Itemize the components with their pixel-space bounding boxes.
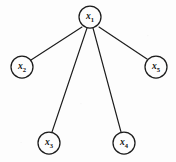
node-x1-label-sub: 1 xyxy=(91,15,94,22)
node-x3[interactable]: x3 xyxy=(38,132,60,154)
node-x5[interactable]: x5 xyxy=(145,56,167,78)
edge-x1-x5 xyxy=(99,27,147,59)
node-x1[interactable]: x1 xyxy=(79,6,101,28)
graph-canvas: x1 x2 x3 x4 xyxy=(0,0,176,162)
node-x2[interactable]: x2 xyxy=(11,56,33,78)
edge-x1-x2 xyxy=(31,27,82,60)
node-x4[interactable]: x4 xyxy=(113,132,135,154)
edge-x1-x4 xyxy=(93,28,121,132)
edge-group xyxy=(31,27,147,132)
node-group: x1 x2 x3 x4 xyxy=(11,6,167,154)
graph-diagram: x1 x2 x3 x4 xyxy=(0,0,176,162)
